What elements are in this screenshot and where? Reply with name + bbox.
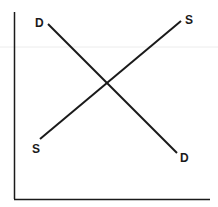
supply-demand-diagram: D S S D <box>0 0 218 207</box>
supply-curve <box>40 21 181 139</box>
demand-label-bottom: D <box>180 151 189 165</box>
demand-curve <box>48 24 177 153</box>
supply-label-top: S <box>185 13 193 27</box>
demand-label-top: D <box>35 16 44 30</box>
supply-label-bottom: S <box>32 142 40 156</box>
